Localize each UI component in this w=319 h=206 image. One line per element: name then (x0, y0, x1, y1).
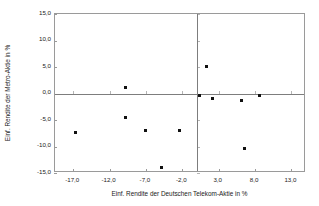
x-tick-mark (110, 169, 111, 172)
y-tick-mark (54, 67, 57, 68)
y-axis-title: Einf. Rendite der Metro-Aktie in % (4, 44, 11, 140)
data-point (178, 129, 181, 132)
data-point (258, 94, 261, 97)
zero-line-vertical (197, 14, 198, 171)
scatter-chart: Einf. Rendite der Metro-Aktie in % 15,01… (0, 0, 319, 206)
data-point (160, 166, 163, 169)
y-tick-mark (54, 14, 57, 15)
y-tick-label: -5,0 (40, 116, 51, 122)
y-tick-label: 5,0 (42, 63, 51, 69)
y-tick-label: -10,0 (37, 142, 51, 148)
data-point (243, 147, 246, 150)
y-tick-label: -15,0 (37, 169, 51, 175)
x-tick-label: 13,0 (284, 177, 296, 183)
data-point (124, 86, 127, 89)
y-tick-label: 10,0 (39, 36, 51, 42)
x-tick-mark (182, 169, 183, 172)
y-tick-label: 15,0 (39, 10, 51, 16)
zero-line-horizontal (55, 94, 304, 95)
data-point (205, 65, 208, 68)
x-tick-mark (146, 169, 147, 172)
x-tick-label: 8,0 (250, 177, 259, 183)
y-tick-mark (54, 173, 57, 174)
x-tick-mark (73, 169, 74, 172)
data-point (211, 97, 214, 100)
data-point (124, 116, 127, 119)
y-tick-label: 0,0 (42, 89, 51, 95)
x-tick-label: -2,0 (176, 177, 187, 183)
x-tick-mark (255, 169, 256, 172)
data-point (144, 129, 147, 132)
plot-inner (55, 14, 304, 171)
y-tick-mark-inner (197, 173, 200, 174)
plot-area (54, 13, 305, 172)
y-axis-title-container: Einf. Rendite der Metro-Aktie in % (0, 13, 14, 172)
data-point (74, 131, 77, 134)
y-tick-mark (54, 120, 57, 121)
x-axis-title: Einf. Rendite der Deutschen Telekom-Akti… (54, 190, 305, 197)
data-point (240, 99, 243, 102)
x-tick-label: -12,0 (102, 177, 116, 183)
x-tick-mark (291, 169, 292, 172)
x-tick-label: -7,0 (140, 177, 151, 183)
x-tick-label: 3,0 (213, 177, 222, 183)
y-tick-mark (54, 147, 57, 148)
x-tick-mark (219, 169, 220, 172)
data-point (198, 94, 201, 97)
x-tick-label: -17,0 (65, 177, 79, 183)
y-tick-mark (54, 41, 57, 42)
